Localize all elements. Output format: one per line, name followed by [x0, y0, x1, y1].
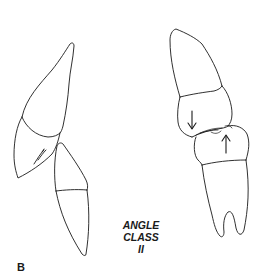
figure-canvas: ANGLE CLASS II B: [0, 0, 260, 278]
upper-molar-occlusal: [192, 126, 228, 137]
lower-incisor-crown: [55, 143, 88, 191]
arrow-down-icon: [188, 111, 196, 129]
lower-incisor-root: [56, 190, 89, 256]
angle-class-caption: ANGLE CLASS II: [106, 219, 176, 255]
arrow-up-icon: [222, 135, 230, 153]
lower-incisor-cej: [56, 190, 87, 191]
panel-label: B: [17, 261, 25, 273]
upper-molar-cej: [180, 86, 222, 97]
lower-molar-cej: [202, 160, 246, 165]
upper-molar-crown: [178, 86, 232, 137]
lower-incisor: [55, 143, 89, 256]
caption-line-1: ANGLE: [106, 219, 176, 231]
upper-molar: [170, 29, 232, 137]
lower-molar: [194, 125, 249, 236]
lower-molar-crown: [194, 125, 249, 165]
upper-incisor-crown: [14, 117, 60, 178]
upper-incisor-root: [22, 43, 74, 133]
upper-molar-root: [170, 29, 222, 97]
lower-molar-root: [202, 160, 248, 237]
caption-line-3: II: [106, 243, 176, 255]
caption-line-2: CLASS: [106, 231, 176, 243]
upper-incisor: [14, 43, 74, 178]
upper-incisor-wear-lines: [34, 149, 46, 164]
upper-incisor-cej: [22, 117, 60, 137]
